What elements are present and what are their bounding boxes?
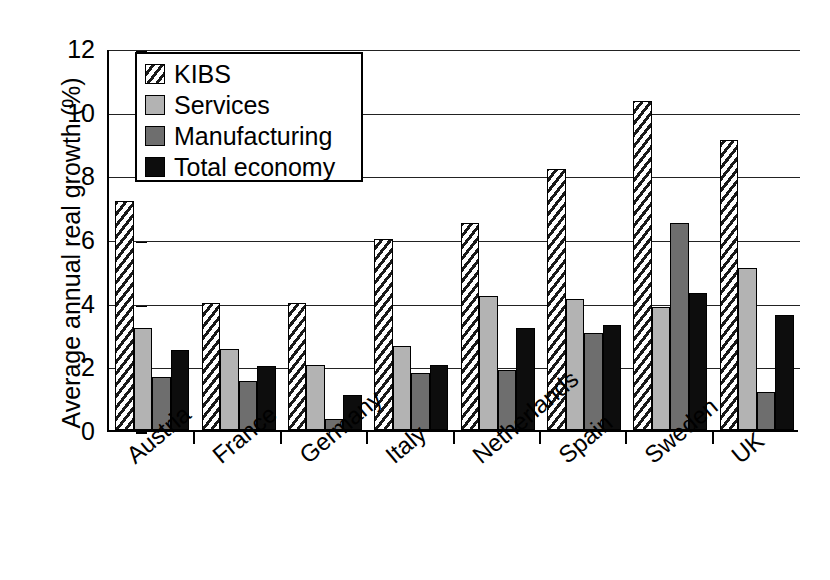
total-economy-swatch-icon bbox=[145, 157, 165, 177]
legend-item-label: Total economy bbox=[174, 155, 335, 180]
x-axis-category-label: UK bbox=[726, 427, 770, 470]
y-axis-tick-label: 6 bbox=[49, 226, 95, 255]
y-axis-tick-label: 0 bbox=[49, 417, 95, 446]
gridline bbox=[109, 50, 800, 51]
x-axis-tick bbox=[625, 432, 627, 444]
legend-item-label: KIBS bbox=[174, 62, 231, 87]
manufacturing-swatch-icon bbox=[145, 126, 165, 146]
y-axis-tick-label: 12 bbox=[49, 35, 95, 64]
bar-uk-kibs bbox=[720, 140, 739, 430]
y-axis-tick-labels: 024681012 bbox=[40, 0, 95, 580]
legend-item-total-economy: Total economy bbox=[145, 152, 361, 182]
x-axis-tick bbox=[280, 432, 282, 444]
legend-item-label: Manufacturing bbox=[174, 124, 332, 149]
legend-item-kibs: KIBS bbox=[145, 59, 361, 89]
x-axis-tick bbox=[712, 432, 714, 444]
bar-sweden-manufacturing bbox=[670, 223, 689, 430]
bar-netherlands-services bbox=[479, 296, 498, 430]
bar-uk-manufacturing bbox=[757, 392, 776, 430]
y-axis-tick-label: 4 bbox=[49, 290, 95, 319]
bar-france-services bbox=[220, 349, 239, 430]
bar-germany-kibs bbox=[288, 303, 307, 430]
gridline bbox=[109, 241, 800, 242]
bar-uk-total-economy bbox=[775, 315, 794, 430]
y-axis-tick-label: 8 bbox=[49, 162, 95, 191]
kibs-swatch-icon bbox=[145, 64, 165, 84]
bar-austria-services bbox=[134, 328, 153, 430]
chart-legend: KIBSServicesManufacturingTotal economy bbox=[135, 52, 363, 182]
x-axis-tick bbox=[453, 432, 455, 444]
x-axis-tick bbox=[193, 432, 195, 444]
legend-item-services: Services bbox=[145, 90, 361, 120]
y-axis-tick-label: 2 bbox=[49, 353, 95, 382]
services-swatch-icon bbox=[145, 95, 165, 115]
bar-netherlands-kibs bbox=[461, 223, 480, 430]
bar-germany-services bbox=[306, 365, 325, 430]
x-axis-tick bbox=[539, 432, 541, 444]
bar-sweden-kibs bbox=[633, 101, 652, 430]
bar-italy-total-economy bbox=[430, 365, 449, 430]
x-axis-tick bbox=[366, 432, 368, 444]
y-axis-tick-label: 10 bbox=[49, 99, 95, 128]
chart-figure: Average annual real growth (%) 024681012… bbox=[0, 0, 830, 580]
bar-france-kibs bbox=[202, 303, 221, 430]
bar-sweden-services bbox=[652, 307, 671, 430]
legend-item-label: Services bbox=[174, 93, 270, 118]
legend-item-manufacturing: Manufacturing bbox=[145, 121, 361, 151]
bar-uk-services bbox=[738, 268, 757, 430]
bar-spain-services bbox=[566, 299, 585, 430]
bar-italy-services bbox=[393, 346, 412, 430]
bar-austria-kibs bbox=[115, 201, 134, 430]
